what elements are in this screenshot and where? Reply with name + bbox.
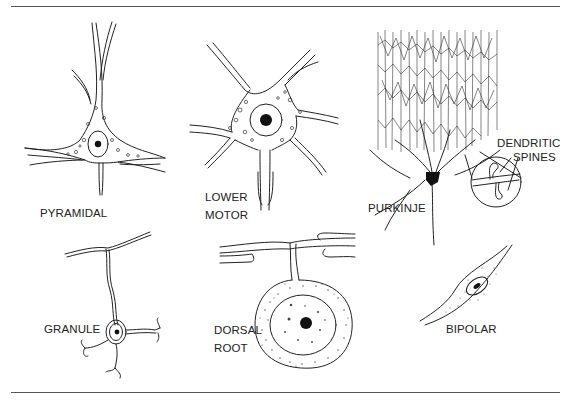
bipolar-neuron-drawing <box>0 0 571 401</box>
bipolar-label: BIPOLAR <box>446 322 497 337</box>
